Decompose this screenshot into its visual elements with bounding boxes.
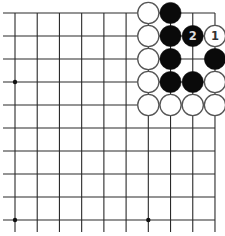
white-stone [138,2,159,23]
black-stone-icon [160,25,181,46]
move-number-label: 2 [189,29,197,43]
star-point-icon [13,80,17,84]
star-point-icon [13,218,17,222]
white-stone [160,94,181,115]
white-stone [138,94,159,115]
white-stone-icon [204,94,225,115]
black-stone-icon [182,71,203,92]
black-stone [182,71,203,92]
white-stone-icon [138,71,159,92]
black-stone [160,2,181,23]
white-stone-icon [138,25,159,46]
black-stone-icon [204,48,225,69]
white-stone [204,94,225,115]
black-stone [160,25,181,46]
black-stone: 2 [182,25,203,46]
black-stone [204,48,225,69]
black-stone [160,48,181,69]
white-stone [138,71,159,92]
stones: 21 [138,2,225,115]
white-stone [182,94,203,115]
star-point-icon [146,218,150,222]
white-stone-icon [138,48,159,69]
white-stone [138,25,159,46]
white-stone-icon [138,2,159,23]
grid-lines [3,13,215,232]
black-stone-icon [160,48,181,69]
white-stone-icon [160,94,181,115]
black-stone [160,71,181,92]
move-number-label: 1 [211,29,219,43]
black-stone-icon [160,71,181,92]
white-stone-icon [138,94,159,115]
white-stone: 1 [204,25,225,46]
go-board: 21 [0,0,225,236]
black-stone-icon [160,2,181,23]
white-stone [138,48,159,69]
white-stone-icon [204,71,225,92]
white-stone [204,71,225,92]
white-stone-icon [182,94,203,115]
